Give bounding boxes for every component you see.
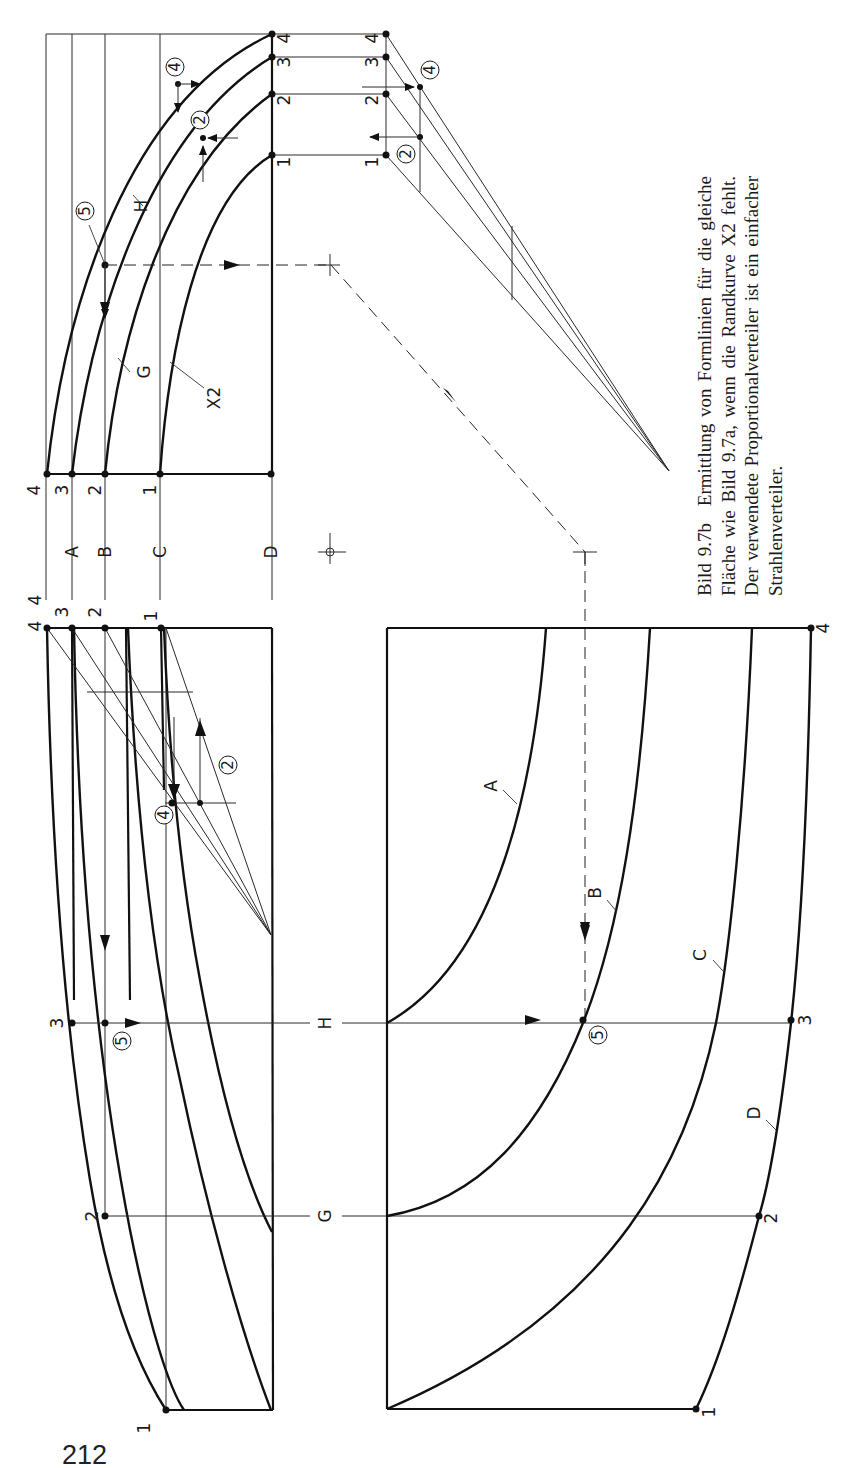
curve-label-H: H	[131, 200, 151, 213]
figure-caption: Bild 9.7b Ermittlung von Formlinien für …	[693, 176, 787, 596]
point-label: 1	[134, 1423, 154, 1434]
point-label: 1	[274, 157, 294, 168]
fan-point-label: 1	[362, 157, 382, 168]
section-label-C: C	[150, 546, 170, 558]
section-label-G: G	[315, 1209, 335, 1222]
point-label: 3	[52, 485, 72, 496]
section-label-H: H	[315, 1017, 335, 1030]
corner-point-label: 2	[761, 1213, 781, 1224]
fan-point-label: 4	[362, 33, 382, 44]
corner-point-label: 3	[795, 1015, 815, 1026]
curve-X2	[160, 155, 272, 474]
point-label: 2	[85, 607, 105, 618]
corner-point-label: 1	[699, 1407, 719, 1418]
formline-label-D: D	[744, 1106, 764, 1119]
point-label: 3	[47, 1018, 67, 1029]
fan-point-label: 3	[362, 57, 382, 68]
corner-point-label: 4	[813, 623, 833, 634]
formline-label-B: B	[585, 887, 605, 899]
formline-A	[387, 628, 546, 1023]
curve-label-X2: X2	[204, 387, 224, 409]
point-label: 2	[274, 95, 294, 106]
formline-C	[387, 628, 752, 1409]
point-label: 3	[274, 57, 294, 68]
fan-step-4-marker: 4	[421, 65, 439, 75]
step-5-marker: 5	[113, 1036, 131, 1046]
point-label: 4	[25, 621, 45, 632]
point-label: 1	[141, 611, 161, 622]
fan-labels: 4 3 2 1 4 2	[362, 33, 439, 168]
fan-step-2-marker: 2	[397, 149, 415, 159]
step-4-marker: 4	[166, 62, 184, 72]
section-label-A: A	[62, 546, 82, 558]
curve-G	[105, 94, 272, 474]
point-label: 4	[274, 33, 294, 44]
figure-label: Bild 9.7b	[694, 523, 715, 596]
top-view	[44, 31, 387, 601]
step-2-marker: 2	[219, 760, 237, 770]
side-view	[44, 302, 388, 1414]
point-label: 2	[82, 1211, 102, 1222]
formline-label-A: A	[481, 780, 501, 792]
point-label: 2	[85, 485, 105, 496]
bottom-view	[387, 625, 815, 1413]
step-5-marker: 5	[76, 206, 94, 216]
point-label: 3	[52, 607, 72, 618]
point-label: 1	[140, 485, 160, 496]
formline-label-C: C	[690, 949, 710, 961]
step-4-marker: 4	[155, 810, 173, 820]
step-2-marker: 2	[191, 115, 209, 125]
point-label: 4	[25, 595, 45, 606]
curve-label-G: G	[134, 365, 154, 378]
point-label: 4	[24, 485, 44, 496]
section-label-B: B	[95, 546, 115, 558]
section-label-D: D	[261, 545, 281, 558]
fan-point-label: 2	[362, 95, 382, 106]
step-5-marker: 5	[589, 1030, 607, 1040]
page-number: 212	[62, 1440, 107, 1468]
formline-B	[387, 628, 650, 1216]
top-view-labels: 4 3 2 1 4 3 2 1 H G X2 4 2 5	[24, 33, 294, 496]
